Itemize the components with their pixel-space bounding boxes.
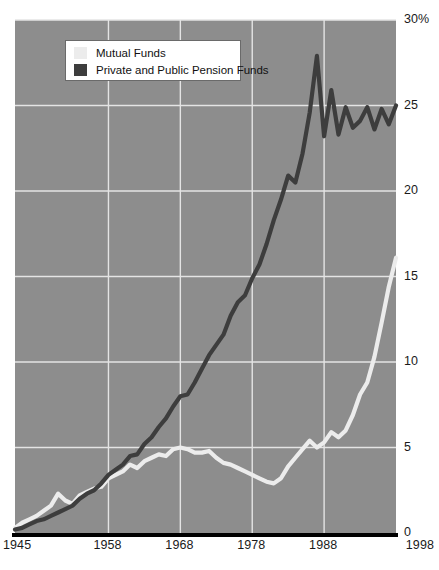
legend-label-pension-funds: Private and Public Pension Funds bbox=[96, 64, 269, 76]
legend-swatch-pension-funds bbox=[74, 64, 87, 76]
chart-canvas bbox=[0, 0, 439, 570]
y-tick-5: 5 bbox=[404, 440, 411, 454]
x-tick-1968: 1968 bbox=[165, 538, 193, 552]
x-tick-1998: 1998 bbox=[406, 538, 434, 552]
x-tick-1945: 1945 bbox=[3, 538, 31, 552]
legend-swatch-mutual-funds bbox=[74, 47, 87, 59]
y-tick-20: 20 bbox=[404, 183, 418, 197]
legend-item-mutual-funds: Mutual Funds bbox=[74, 45, 166, 60]
y-tick-10: 10 bbox=[404, 354, 418, 368]
legend-item-pension-funds: Private and Public Pension Funds bbox=[74, 62, 269, 77]
horizontal-gridlines bbox=[15, 20, 396, 448]
y-tick-30: 30% bbox=[404, 12, 429, 26]
y-tick-0: 0 bbox=[404, 525, 411, 539]
series-lines bbox=[15, 56, 396, 530]
legend-label-mutual-funds: Mutual Funds bbox=[96, 47, 166, 59]
y-tick-15: 15 bbox=[404, 269, 418, 283]
chart-legend: Mutual Funds Private and Public Pension … bbox=[65, 40, 241, 81]
line-chart: 30%2520151050 194519581968197819881998 M… bbox=[0, 0, 439, 570]
x-tick-1958: 1958 bbox=[93, 538, 121, 552]
y-tick-25: 25 bbox=[404, 98, 418, 112]
x-tick-1988: 1988 bbox=[309, 538, 337, 552]
x-tick-1978: 1978 bbox=[237, 538, 265, 552]
